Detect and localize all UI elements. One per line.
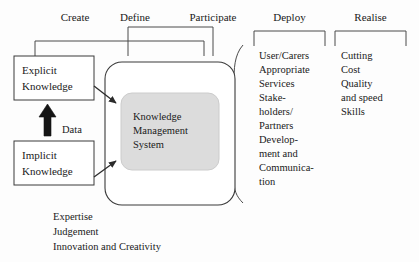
realise-line-2: Quality [341, 77, 373, 91]
kms-line1: Knowledge [133, 110, 181, 124]
kms-line2: Management [133, 124, 188, 138]
deploy-line-9: tion [259, 175, 275, 189]
kms-line3: System [133, 138, 164, 152]
realise-line-3: and speed [341, 91, 383, 105]
deploy-line-7: ment and [259, 147, 298, 161]
diagram-canvas: Create Define Participate Deploy Realise… [0, 0, 419, 262]
deploy-line-4: holders/ [259, 105, 293, 119]
explicit-knowledge-line2: Knowledge [22, 79, 73, 94]
realise-line-1: Cost [341, 63, 360, 77]
bracket-create [35, 41, 128, 56]
footer-line-0: Expertise [53, 210, 93, 225]
phase-label-deploy: Deploy [254, 12, 325, 23]
bracket-deploy [254, 31, 325, 46]
phase-label-define: Define [100, 12, 170, 23]
bracket-realise [335, 31, 406, 46]
deploy-line-0: User/Carers [259, 49, 309, 63]
implicit-knowledge-line2: Knowledge [22, 164, 73, 179]
deploy-line-3: Stake- [259, 91, 286, 105]
realise-line-4: Skills [341, 105, 365, 119]
implicit-knowledge-line1: Implicit [22, 148, 57, 163]
footer-line-1: Judgement [53, 225, 99, 240]
explicit-knowledge-line1: Explicit [22, 63, 57, 78]
deploy-line-5: Partners [259, 119, 293, 133]
deploy-line-8: Communica- [259, 161, 314, 175]
phase-label-participate: Participate [173, 12, 253, 23]
deploy-line-6: Develop- [259, 133, 298, 147]
upward-arrow [39, 104, 56, 136]
deploy-line-1: Appropriate [259, 63, 310, 77]
phase-label-realise: Realise [335, 12, 406, 23]
data-flow-label: Data [62, 125, 82, 136]
footer-line-2: Innovation and Creativity [53, 240, 161, 255]
deploy-line-2: Services [259, 77, 295, 91]
realise-line-0: Cutting [341, 49, 373, 63]
bracket-participate [128, 27, 213, 56]
